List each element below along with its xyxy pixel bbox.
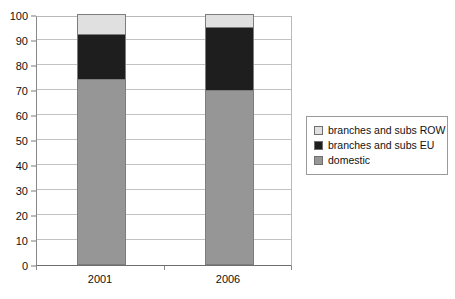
x-axis-tick-label: 2001 (88, 273, 112, 285)
legend-label: domestic (328, 155, 370, 166)
bar-segment[interactable] (77, 34, 126, 80)
x-axis-tick-label: 2006 (216, 273, 240, 285)
bar-segment[interactable] (77, 79, 126, 265)
y-axis-tick-label: 90 (16, 36, 28, 47)
y-axis-tick-label: 100 (10, 11, 28, 22)
y-axis-tick-label: 60 (16, 111, 28, 122)
x-axis-tick-mark (291, 266, 292, 270)
stacked-bar-chart: 0102030405060708090100 20012006 branches… (0, 0, 455, 299)
chart-legend: branches and subs ROWbranches and subs E… (306, 116, 448, 175)
y-axis-tick-label: 30 (16, 186, 28, 197)
bar-segment[interactable] (205, 27, 254, 92)
x-axis-tick-mark (36, 266, 37, 270)
y-axis-tick-label: 50 (16, 136, 28, 147)
legend-swatch-icon (314, 141, 323, 150)
plot-area (36, 16, 292, 266)
legend-item[interactable]: branches and subs EU (314, 138, 440, 153)
y-axis-tick-label: 10 (16, 236, 28, 247)
bar-group[interactable] (205, 17, 254, 265)
legend-label: branches and subs ROW (328, 125, 445, 136)
y-axis: 0102030405060708090100 (0, 16, 36, 266)
y-axis-tick-label: 0 (22, 261, 28, 272)
y-axis-tick-label: 40 (16, 161, 28, 172)
bars-layer (37, 17, 291, 265)
legend-label: branches and subs EU (328, 140, 434, 151)
legend-item[interactable]: domestic (314, 153, 440, 168)
y-axis-tick-label: 70 (16, 86, 28, 97)
y-axis-tick-label: 20 (16, 211, 28, 222)
y-axis-tick-label: 80 (16, 61, 28, 72)
legend-swatch-icon (314, 156, 323, 165)
x-axis: 20012006 (36, 266, 292, 296)
bar-group[interactable] (77, 17, 126, 265)
bar-segment[interactable] (205, 90, 254, 265)
bar-segment[interactable] (205, 14, 254, 28)
legend-item[interactable]: branches and subs ROW (314, 123, 440, 138)
legend-swatch-icon (314, 126, 323, 135)
x-axis-tick-mark (164, 266, 165, 270)
bar-segment[interactable] (77, 14, 126, 35)
